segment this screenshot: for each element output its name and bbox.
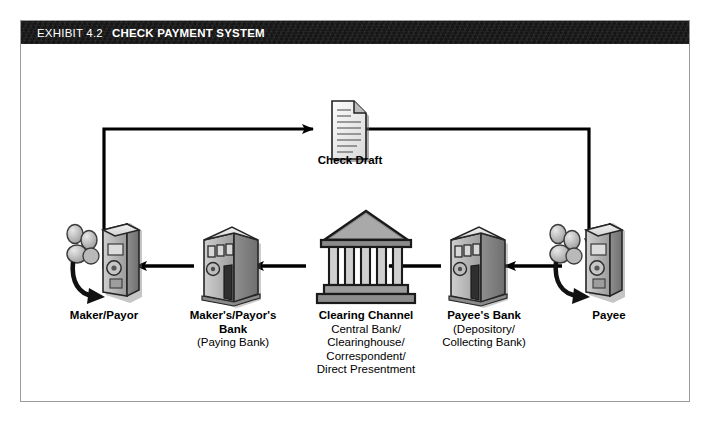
document-icon <box>332 101 369 162</box>
node-subline-clearing-3: Correspondent/ <box>293 350 439 364</box>
check-draft-label-text: Check Draft <box>318 154 383 166</box>
classical-bank-icon <box>317 211 415 303</box>
node-title-clearing-channel: Clearing Channel <box>293 309 439 323</box>
node-subline-clearing-1: Central Bank/ <box>293 323 439 337</box>
node-label-payees-bank: Payee's Bank (Depository/ Collecting Ban… <box>419 309 549 350</box>
exhibit-header-bar: EXHIBIT 4.2 CHECK PAYMENT SYSTEM <box>21 21 689 44</box>
node-subline-payees-bank-1: (Depository/ <box>419 323 549 337</box>
bank-building-icon-payees-bank <box>449 227 508 308</box>
page-canvas: EXHIBIT 4.2 CHECK PAYMENT SYSTEM <box>0 0 712 430</box>
bank-building-icon-makers-bank <box>202 227 261 308</box>
node-subline-clearing-2: Clearinghouse/ <box>293 336 439 350</box>
node-title-makers-bank-line1: Maker's/Payor's <box>169 309 297 323</box>
node-title-payee: Payee <box>549 309 669 323</box>
node-label-makers-bank: Maker's/Payor's Bank (Paying Bank) <box>169 309 297 350</box>
node-title-makers-bank-line2: Bank <box>169 323 297 337</box>
node-subline-clearing-4: Direct Presentment <box>293 363 439 377</box>
node-label-maker: Maker/Payor <box>39 309 169 323</box>
node-label-clearing-channel: Clearing Channel Central Bank/ Clearingh… <box>293 309 439 377</box>
check-draft-label: Check Draft <box>295 154 405 166</box>
exhibit-number: EXHIBIT 4.2 <box>37 27 103 39</box>
exhibit-figure: EXHIBIT 4.2 CHECK PAYMENT SYSTEM <box>20 20 690 402</box>
node-subline-payees-bank-2: Collecting Bank) <box>419 336 549 350</box>
exhibit-title: CHECK PAYMENT SYSTEM <box>112 27 265 39</box>
node-title-maker: Maker/Payor <box>39 309 169 323</box>
diagram-canvas: Check Draft Maker/Payor Maker's/Payor's … <box>21 44 689 401</box>
node-label-payee: Payee <box>549 309 669 323</box>
node-title-payees-bank: Payee's Bank <box>419 309 549 323</box>
node-subline-makers-bank-1: (Paying Bank) <box>169 336 297 350</box>
person-at-terminal-icon-maker <box>67 223 142 304</box>
person-at-terminal-icon-payee <box>550 223 625 304</box>
